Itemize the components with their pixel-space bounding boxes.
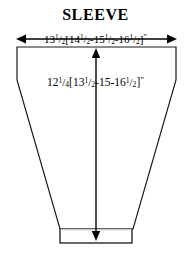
width-arrow-head-left-icon [16,35,26,44]
width-dimension-arrow [16,35,177,44]
sleeve-schematic: SLEEVE 131/2[141/2-151/2-161/2]" 121/4[1… [0,0,191,256]
width-arrow-head-right-icon [167,35,177,44]
length-arrow-head-top-icon [92,48,100,58]
length-arrow-head-bottom-icon [92,231,100,241]
schematic-vector-layer [0,0,191,256]
length-dimension-arrow [92,48,100,241]
